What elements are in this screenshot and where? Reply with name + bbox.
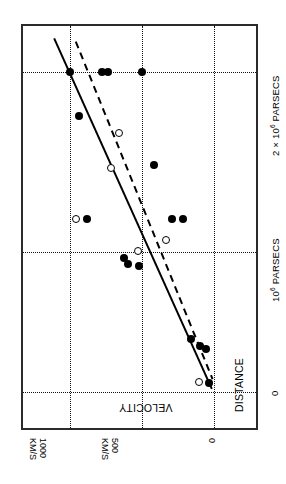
data-point-individual: [66, 68, 74, 76]
tick-label-distance-2e6: 2 × 106 PARSECS: [270, 75, 281, 156]
plot-frame: VELOCITY: [21, 24, 258, 430]
data-point-grouped: [115, 129, 123, 137]
tick-label-velocity-0: 0: [207, 438, 217, 443]
tick-label-distance-1e6: 106 PARSECS: [270, 238, 281, 302]
data-point-individual: [138, 68, 146, 76]
data-point-grouped: [134, 247, 142, 255]
fit-lines: [23, 26, 260, 432]
data-point-individual: [75, 112, 83, 120]
tick-label-velocity-500: 500 KM/S: [100, 438, 120, 460]
data-point-individual: [135, 262, 143, 270]
figure-canvas: VELOCITY 1000 KM/S 500 KM/S 0 DISTANCE 0…: [0, 0, 286, 484]
tick-label-velocity-1000: 1000 KM/S: [28, 438, 48, 460]
data-point-individual: [124, 260, 132, 268]
data-point-grouped: [72, 215, 80, 223]
fit-line-grouped: [76, 42, 213, 380]
axis-title-velocity: VELOCITY: [119, 402, 173, 413]
data-point-grouped: [107, 164, 115, 172]
data-point-individual: [150, 161, 158, 169]
data-point-individual: [202, 345, 210, 353]
axis-title-distance: DISTANCE: [234, 358, 245, 412]
tick-label-distance-0: 0: [270, 391, 280, 396]
